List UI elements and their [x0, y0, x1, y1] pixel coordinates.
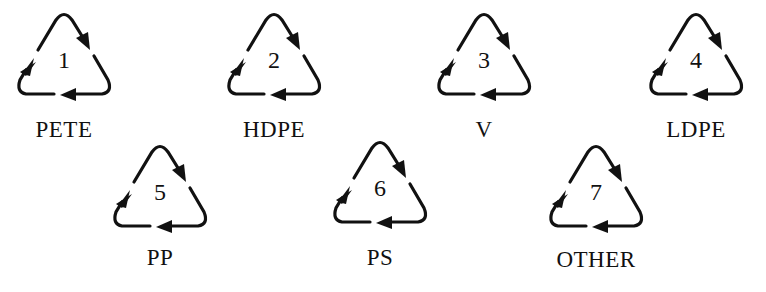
resin-number: 6: [332, 176, 428, 200]
resin-label: PETE: [0, 118, 142, 142]
resin-code-2: 2 HDPE: [226, 12, 322, 132]
resin-number: 3: [436, 48, 532, 72]
resin-number: 5: [112, 180, 208, 204]
resin-label: V: [406, 118, 562, 142]
resin-code-5: 5 PP: [112, 144, 208, 264]
resin-label: PP: [82, 246, 238, 270]
resin-label: HDPE: [196, 118, 352, 142]
resin-label: PS: [302, 246, 458, 270]
resin-number: 1: [16, 48, 112, 72]
resin-label: LDPE: [618, 118, 766, 142]
resin-code-6: 6 PS: [332, 140, 428, 260]
resin-code-7: 7 OTHER: [548, 144, 644, 264]
resin-number: 2: [226, 48, 322, 72]
resin-code-3: 3 V: [436, 12, 532, 132]
resin-number: 7: [548, 180, 644, 204]
resin-code-1: 1 PETE: [16, 12, 112, 132]
resin-label: OTHER: [518, 248, 674, 272]
resin-code-4: 4 LDPE: [648, 12, 744, 132]
resin-number: 4: [648, 48, 744, 72]
